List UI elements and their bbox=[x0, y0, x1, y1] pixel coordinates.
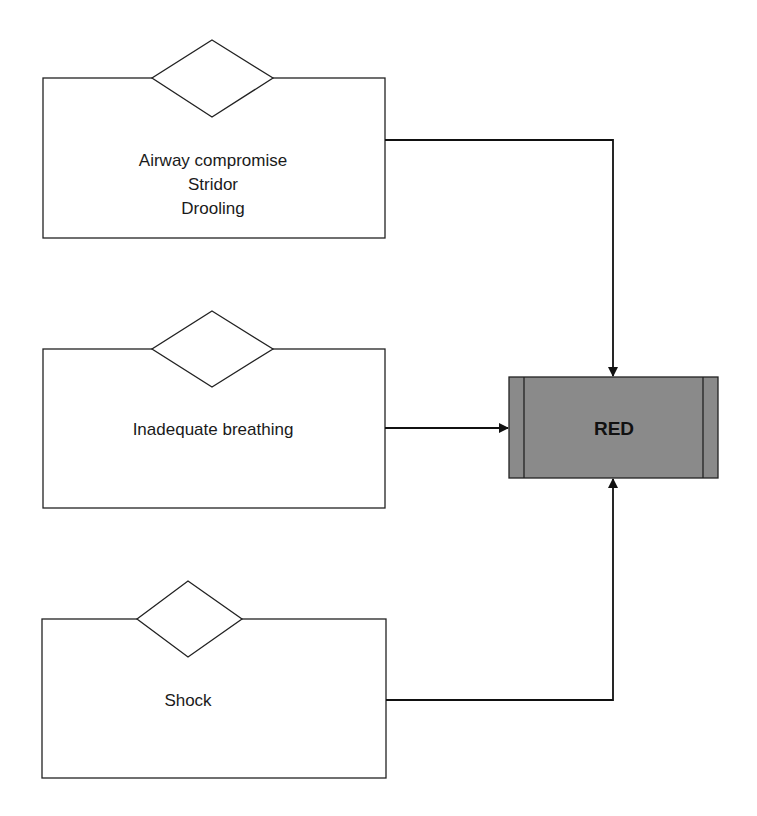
outcome-box-red: RED bbox=[509, 377, 718, 478]
triage-flowchart: Airway compromise Stridor Drooling Inade… bbox=[0, 0, 757, 816]
criterion-label: Shock bbox=[164, 691, 212, 710]
outcome-label: RED bbox=[594, 418, 634, 439]
criterion-label: Stridor bbox=[188, 175, 238, 194]
connector-arrow-shock bbox=[386, 479, 613, 700]
criterion-box-airway: Airway compromise Stridor Drooling bbox=[43, 40, 385, 238]
connector-arrow-airway bbox=[385, 140, 613, 376]
criterion-box-shock: Shock bbox=[42, 581, 386, 778]
criterion-label: Drooling bbox=[181, 199, 244, 218]
criterion-label: Inadequate breathing bbox=[133, 420, 294, 439]
criterion-label: Airway compromise bbox=[139, 151, 287, 170]
criterion-box-breathing: Inadequate breathing bbox=[43, 311, 385, 508]
